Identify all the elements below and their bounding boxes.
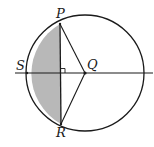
radius-QP [60,24,85,73]
label-R: R [55,125,66,140]
label-S: S [16,58,25,73]
circle-diagram: P Q R S [0,0,154,147]
point-S [26,72,28,74]
radius-QR [61,73,85,124]
shaded-segment [31,24,61,124]
right-angle-marker [61,69,66,74]
label-P: P [55,6,65,21]
point-P [59,23,61,25]
label-Q: Q [87,57,98,72]
